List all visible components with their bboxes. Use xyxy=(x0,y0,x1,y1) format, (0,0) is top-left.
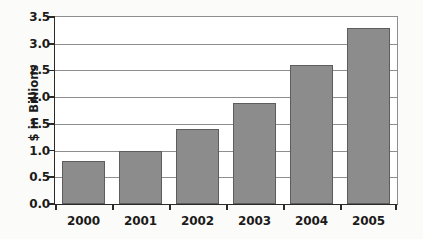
x-axis-tick xyxy=(395,204,397,210)
x-axis-tick-label: 2005 xyxy=(352,214,385,228)
y-axis-tick-label: 3.0 xyxy=(29,37,50,51)
bar xyxy=(119,151,161,204)
x-axis-tick xyxy=(169,204,171,210)
y-axis-tick-label: 1.0 xyxy=(29,144,50,158)
x-axis-tick xyxy=(112,204,114,210)
x-axis-tick xyxy=(340,204,342,210)
x-axis-tick-label: 2001 xyxy=(124,214,157,228)
y-axis-tick-label: 0.5 xyxy=(29,170,50,184)
bar xyxy=(62,161,104,204)
bar xyxy=(233,103,275,205)
x-axis-tick-label: 2004 xyxy=(295,214,328,228)
x-axis-tick-label: 2002 xyxy=(181,214,214,228)
x-axis-tick xyxy=(283,204,285,210)
x-axis-tick-label: 2000 xyxy=(67,214,100,228)
bar xyxy=(347,28,389,204)
bars-group xyxy=(55,17,397,204)
bar xyxy=(290,65,332,204)
y-axis-tick-label: 1.5 xyxy=(29,117,50,131)
x-axis-tick xyxy=(55,204,57,210)
plot-area: 0.00.51.01.52.02.53.03.5 200020012002200… xyxy=(54,16,398,205)
bar-chart-figure: $ in Billions 0.00.51.01.52.02.53.03.5 2… xyxy=(0,0,423,239)
y-axis-tick-label: 2.5 xyxy=(29,63,50,77)
y-axis-tick-label: 3.5 xyxy=(29,10,50,24)
y-axis-tick-label: 0.0 xyxy=(29,197,50,211)
bar xyxy=(176,129,218,204)
x-axis-tick xyxy=(226,204,228,210)
y-axis-tick-label: 2.0 xyxy=(29,90,50,104)
x-axis-tick-label: 2003 xyxy=(238,214,271,228)
